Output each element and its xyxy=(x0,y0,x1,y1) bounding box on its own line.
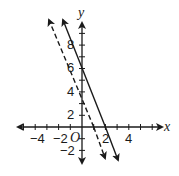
y-tick-label: 2 xyxy=(67,107,74,122)
y-tick-label: 8 xyxy=(67,37,74,52)
y-tick-label: 6 xyxy=(67,60,74,75)
coordinate-graph: y x O −4 −2 2 4 8 6 4 2 −2 xyxy=(0,0,179,176)
y-tick-label: 4 xyxy=(67,84,74,99)
x-axis xyxy=(18,124,162,130)
y-tick-label: −2 xyxy=(60,143,75,158)
x-tick-label: −4 xyxy=(30,131,45,146)
x-tick-label: 2 xyxy=(102,131,109,146)
x-axis-label: x xyxy=(163,119,171,134)
y-axis-label: y xyxy=(76,5,85,20)
x-tick-label: 4 xyxy=(125,131,132,146)
